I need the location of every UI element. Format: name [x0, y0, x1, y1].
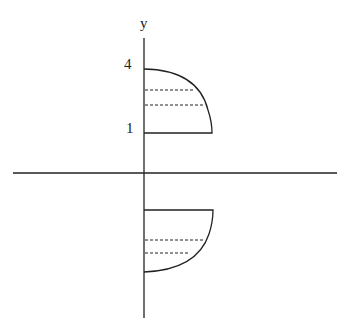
lower-region [144, 210, 213, 272]
y-axis-label: y [140, 15, 148, 31]
upper-region [144, 69, 212, 133]
tick-label-4: 4 [124, 56, 132, 72]
diagram-canvas: y 4 1 [0, 0, 349, 326]
tick-label-1: 1 [126, 120, 134, 136]
